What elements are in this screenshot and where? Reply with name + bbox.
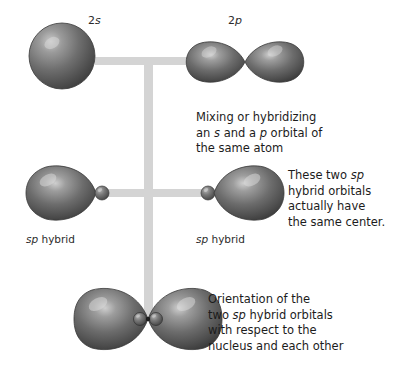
orbital-sp-hybrid-left xyxy=(26,163,110,223)
sp-hybridization-diagram: 2s 2p Mixing or hybridizing an s and a p… xyxy=(0,0,397,375)
callout-same-center-line-1: These two sp xyxy=(288,168,385,184)
connector-middle-horizontal-bar xyxy=(104,189,207,197)
callout-same-center-line-4: the same center. xyxy=(288,215,385,231)
callout-mixing-hybridizing: Mixing or hybridizing an s and a p orbit… xyxy=(196,110,322,157)
callout-mixing-line-3: the same atom xyxy=(196,141,322,157)
callout-orientation-line-3: with respect to the xyxy=(208,323,343,339)
callout-orientation: Orientation of the two sp hybrid orbital… xyxy=(208,292,343,354)
orbital-2s-sphere xyxy=(28,22,100,94)
orbital-sp-hybrid-right-label: sp hybrid xyxy=(196,233,245,245)
callout-same-center-line-3: actually have xyxy=(288,199,385,215)
orbital-sp-hybrid-pair-bottom xyxy=(74,283,222,355)
orbital-2s-label: 2s xyxy=(88,15,101,26)
callout-orientation-line-1: Orientation of the xyxy=(208,292,343,308)
callout-same-center-line-2: hybrid orbitals xyxy=(288,184,385,200)
orbital-sp-hybrid-right xyxy=(200,163,284,223)
orbital-sp-hybrid-left-label: sp hybrid xyxy=(26,233,75,245)
callout-same-center: These two sp hybrid orbitals actually ha… xyxy=(288,168,385,230)
orbital-2p-label: 2p xyxy=(228,15,242,26)
callout-orientation-line-4: nucleus and each other xyxy=(208,339,343,355)
callout-orientation-line-2: two sp hybrid orbitals xyxy=(208,308,343,324)
callout-mixing-line-1: Mixing or hybridizing xyxy=(196,110,322,126)
orbital-2p-lobes xyxy=(183,33,307,91)
connector-vertical-stem-upper xyxy=(144,57,153,193)
callout-mixing-line-2: an s and a p orbital of xyxy=(196,126,322,142)
